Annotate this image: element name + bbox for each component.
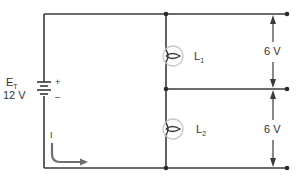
junction-dots xyxy=(164,12,290,171)
source-voltage: 12 V xyxy=(3,89,26,101)
lamp-l1-label: L1 xyxy=(194,50,204,64)
current-label: I xyxy=(50,130,53,140)
source-plus: + xyxy=(55,77,60,87)
battery-icon xyxy=(37,82,51,94)
junction-dot xyxy=(164,12,169,17)
lamp-l2-label: L2 xyxy=(196,123,206,137)
circuit-diagram: ET 12 V + – I L1 L2 6 V xyxy=(0,0,303,180)
junction-dot xyxy=(164,166,169,171)
source-label: ET xyxy=(6,76,18,90)
source-minus: – xyxy=(55,92,60,102)
terminal-dot xyxy=(285,166,290,171)
terminal-dot xyxy=(285,12,290,17)
current-arrowhead-icon xyxy=(80,159,88,166)
junction-dot xyxy=(164,87,169,92)
lamp-l2-icon xyxy=(163,119,183,139)
current-arrow-icon xyxy=(52,143,80,162)
lamp-l1-icon xyxy=(163,46,183,66)
voltage-label-l1: 6 V xyxy=(264,45,281,57)
voltage-label-l2: 6 V xyxy=(264,123,281,135)
terminal-dot xyxy=(285,87,290,92)
